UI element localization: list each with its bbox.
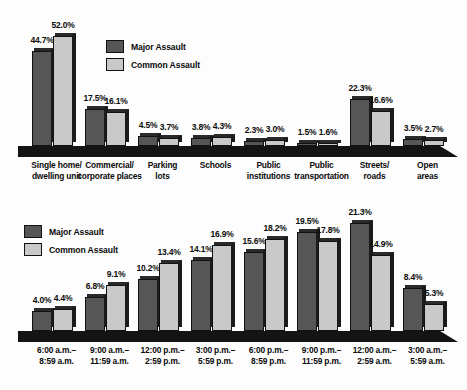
- bar-side-face: [337, 239, 341, 327]
- legend-swatch-major-icon: [106, 40, 124, 53]
- category-label: 6:00 a.m.– 8:59 a.m.: [37, 345, 76, 366]
- legend-item-major: Major Assault: [106, 40, 200, 53]
- category-label: 9:00 a.m.– 11:59 a.m.: [90, 345, 129, 366]
- bar-side-face: [443, 302, 447, 327]
- bar-value-label: 2.3%: [245, 125, 264, 135]
- bar-value-label: 8.4%: [404, 272, 423, 282]
- bar-common: [265, 239, 285, 331]
- bar-major: [350, 99, 370, 146]
- bar-side-face: [178, 136, 182, 142]
- bar-value-label: 10.2%: [136, 263, 159, 273]
- chart-legend-top: Major Assault Common Assault: [106, 40, 200, 76]
- bar-value-label: 5.3%: [425, 288, 444, 298]
- bar-value-label: 4.3%: [213, 121, 232, 131]
- bar-value-label: 18.2%: [263, 223, 286, 233]
- bar-side-face: [231, 243, 235, 327]
- legend-label-major: Major Assault: [131, 42, 186, 52]
- bar-value-label: 1.6%: [319, 127, 338, 137]
- category-label: Parking lots: [148, 160, 178, 181]
- bar-value-label: 4.4%: [54, 293, 73, 303]
- bar-value-label: 15.6%: [242, 236, 265, 246]
- bar-major: [350, 223, 370, 331]
- bar-side-face: [72, 307, 76, 327]
- bar-common: [159, 263, 179, 331]
- bar-common: [53, 309, 73, 331]
- bar-value-label: 21.3%: [348, 207, 371, 217]
- category-label: 3:00 a.m.– 5:59 a.m.: [408, 345, 447, 366]
- bar-value-label: 4.5%: [139, 120, 158, 130]
- legend-label-major: Major Assault: [49, 227, 104, 237]
- bar-side-face: [284, 237, 288, 327]
- bar-side-face: [443, 138, 447, 142]
- bar-common: [106, 112, 126, 146]
- bar-common: [424, 304, 444, 331]
- bar-value-label: 1.5%: [298, 127, 317, 137]
- category-label: Schools: [200, 160, 232, 171]
- bar-value-label: 19.5%: [295, 216, 318, 226]
- category-label: Public transportation: [294, 160, 349, 181]
- bar-common: [106, 285, 126, 331]
- category-label: 3:00 p.m.– 5:59 p.m.: [196, 345, 235, 366]
- bar-value-label: 17.8%: [316, 225, 339, 235]
- bar-side-face: [72, 34, 76, 142]
- category-label: 12:00 p.m.– 2:59 p.m.: [141, 345, 185, 366]
- bar-side-face: [125, 110, 129, 142]
- bar-value-label: 13.4%: [157, 247, 180, 257]
- bar-value-label: 4.0%: [33, 295, 52, 305]
- category-label: 9:00 p.m.– 11:59 p.m.: [302, 345, 341, 366]
- bar-major: [32, 311, 52, 331]
- bar-value-label: 52.0%: [51, 20, 74, 30]
- bar-value-label: 44.7%: [30, 35, 53, 45]
- bar-major: [244, 252, 264, 331]
- chart-baseline-top: [0, 146, 467, 160]
- bar-major: [297, 232, 317, 331]
- bar-value-label: 16.6%: [369, 95, 392, 105]
- bar-major: [403, 288, 423, 331]
- bar-value-label: 17.5%: [83, 93, 106, 103]
- chart-legend-bottom: Major Assault Common Assault: [24, 225, 118, 261]
- legend-label-common: Common Assault: [131, 60, 200, 70]
- category-label: Public institutions: [247, 160, 290, 181]
- legend-swatch-major-icon: [24, 225, 42, 238]
- legend-item-major: Major Assault: [24, 225, 118, 238]
- bar-value-label: 14.9%: [369, 239, 392, 249]
- bar-major: [191, 138, 211, 146]
- category-label: 6:00 p.m.– 8:59 p.m.: [249, 345, 288, 366]
- bar-value-label: 14.1%: [189, 244, 212, 254]
- category-label: Open areas: [408, 160, 448, 181]
- bar-major: [403, 139, 423, 146]
- bar-value-label: 3.5%: [404, 123, 423, 133]
- bar-major: [138, 136, 158, 146]
- bar-side-face: [337, 141, 341, 142]
- bar-common: [212, 245, 232, 331]
- bar-value-label: 16.9%: [210, 229, 233, 239]
- bar-value-label: 3.7%: [160, 122, 179, 132]
- legend-item-common: Common Assault: [24, 243, 118, 256]
- bar-common: [318, 241, 338, 331]
- category-label: 12:00 a.m.– 2:59 a.m.: [353, 345, 397, 366]
- bar-major: [85, 109, 105, 146]
- bar-value-label: 9.1%: [107, 269, 126, 279]
- bar-common: [212, 137, 232, 146]
- legend-swatch-common-icon: [24, 243, 42, 256]
- bar-value-label: 2.7%: [425, 124, 444, 134]
- bar-side-face: [125, 283, 129, 327]
- bar-side-face: [178, 261, 182, 327]
- category-label: Commercial/ corporate places: [77, 160, 142, 181]
- bar-common: [371, 255, 391, 331]
- bar-value-label: 22.3%: [348, 83, 371, 93]
- bar-common: [371, 111, 391, 146]
- legend-item-common: Common Assault: [106, 58, 200, 71]
- bar-value-label: 3.0%: [266, 124, 285, 134]
- bar-common: [159, 138, 179, 146]
- bar-side-face: [284, 138, 288, 142]
- bar-major: [138, 279, 158, 331]
- bar-major: [191, 260, 211, 331]
- bar-value-label: 6.8%: [86, 281, 105, 291]
- bar-side-face: [231, 135, 235, 142]
- category-label: Single home/ dwelling unit: [31, 160, 81, 181]
- chart-baseline-bottom: [0, 331, 467, 345]
- bar-common: [53, 36, 73, 146]
- category-label: Streets/ roads: [360, 160, 390, 181]
- bar-major: [85, 297, 105, 331]
